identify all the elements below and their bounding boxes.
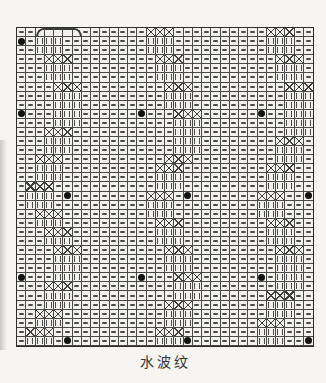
cell-purl — [91, 319, 100, 328]
cell-purl — [193, 255, 202, 264]
cell-purl — [128, 164, 137, 173]
purl-dash-icon — [306, 267, 311, 269]
cell-purl — [156, 128, 165, 137]
knit-bar-icon — [286, 111, 292, 117]
cell-purl — [26, 310, 35, 319]
purl-dash-icon — [130, 95, 135, 97]
cell-purl — [17, 201, 26, 210]
cell-crossing — [165, 155, 174, 164]
purl-dash-icon — [259, 122, 264, 124]
cell-crossing — [45, 55, 54, 64]
cell-purl — [248, 92, 257, 101]
cell-purl — [202, 83, 211, 92]
cell-knit — [54, 119, 63, 128]
cell-purl — [267, 83, 276, 92]
purl-dash-icon — [148, 267, 153, 269]
knit-bar-icon — [46, 302, 52, 308]
cell-purl — [100, 37, 109, 46]
purl-dash-icon — [19, 131, 24, 133]
cell-knit — [295, 73, 304, 82]
cell-purl — [119, 246, 128, 255]
knit-bar-icon — [277, 202, 283, 208]
purl-dash-icon — [157, 313, 162, 315]
purl-dash-icon — [241, 213, 246, 215]
purl-dash-icon — [231, 86, 236, 88]
cell-purl — [119, 310, 128, 319]
cell-purl — [239, 146, 248, 155]
purl-dash-icon — [148, 140, 153, 142]
purl-dash-icon — [148, 158, 153, 160]
purl-dash-icon — [250, 304, 255, 306]
cell-purl — [147, 319, 156, 328]
cell-purl — [100, 55, 109, 64]
purl-dash-icon — [194, 158, 199, 160]
purl-dash-icon — [241, 304, 246, 306]
cell-purl — [82, 228, 91, 237]
purl-dash-icon — [241, 31, 246, 33]
cell-purl — [91, 28, 100, 37]
cell-knit — [285, 92, 294, 101]
purl-dash-icon — [102, 158, 107, 160]
knit-bar-icon — [64, 111, 70, 117]
cell-crossing — [295, 246, 304, 255]
purl-dash-icon — [65, 158, 70, 160]
cell-purl — [156, 282, 165, 291]
purl-dash-icon — [241, 76, 246, 78]
purl-dash-icon — [167, 113, 172, 115]
purl-dash-icon — [139, 204, 144, 206]
purl-dash-icon — [111, 140, 116, 142]
purl-dash-icon — [268, 258, 273, 260]
cell-purl — [63, 173, 72, 182]
cell-purl — [184, 28, 193, 37]
cell-purl — [73, 128, 82, 137]
knit-bar-icon — [185, 265, 191, 271]
cell-purl — [119, 128, 128, 137]
cell-purl — [110, 64, 119, 73]
cell-purl — [36, 55, 45, 64]
cell-purl — [156, 310, 165, 319]
purl-dash-icon — [194, 340, 199, 342]
cell-purl — [211, 237, 220, 246]
cell-purl — [221, 83, 230, 92]
scanned-knitting-chart-page: 水波纹 — [0, 0, 326, 383]
knit-bar-icon — [277, 183, 283, 189]
cell-purl — [119, 255, 128, 264]
purl-dash-icon — [157, 304, 162, 306]
cell-purl — [267, 73, 276, 82]
purl-dash-icon — [185, 185, 190, 187]
cell-purl — [221, 110, 230, 119]
purl-dash-icon — [222, 204, 227, 206]
cell-purl — [36, 146, 45, 155]
purl-dash-icon — [37, 240, 42, 242]
cell-crossing — [276, 192, 285, 201]
cell-crossing — [45, 228, 54, 237]
knit-bar-icon — [277, 65, 283, 71]
purl-dash-icon — [194, 185, 199, 187]
cell-purl — [248, 46, 257, 55]
purl-dash-icon — [278, 104, 283, 106]
purl-dash-icon — [268, 86, 273, 88]
cell-crossing — [54, 282, 63, 291]
purl-dash-icon — [83, 49, 88, 51]
knit-bar-icon — [46, 238, 52, 244]
purl-dash-icon — [93, 122, 98, 124]
cell-knit — [276, 301, 285, 310]
knit-bar-icon — [166, 174, 172, 180]
purl-dash-icon — [185, 231, 190, 233]
cell-knit — [174, 64, 183, 73]
cell-purl — [193, 37, 202, 46]
purl-dash-icon — [185, 67, 190, 69]
purl-dash-icon — [120, 167, 125, 169]
cell-purl — [211, 264, 220, 273]
cell-purl — [267, 282, 276, 291]
cell-purl — [156, 264, 165, 273]
cell-purl — [26, 301, 35, 310]
purl-dash-icon — [139, 313, 144, 315]
cell-purl — [73, 228, 82, 237]
purl-dash-icon — [204, 176, 209, 178]
purl-dash-icon — [56, 204, 61, 206]
purl-dash-icon — [93, 167, 98, 169]
knit-bar-icon — [277, 274, 283, 280]
cell-knit — [36, 319, 45, 328]
purl-dash-icon — [213, 40, 218, 42]
